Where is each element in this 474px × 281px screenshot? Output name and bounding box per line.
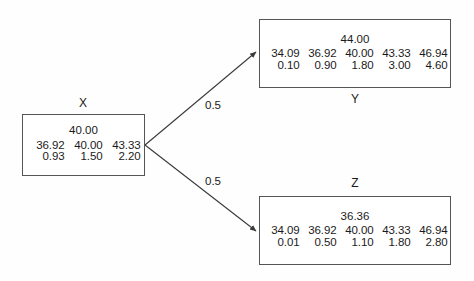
node-x-values: 0.93 1.50 2.20 [27, 151, 141, 165]
edge-x-to-z-label: 0.5 [205, 175, 221, 187]
node-z-values: 0.01 0.50 1.10 1.80 2.80 [263, 237, 448, 251]
diagram-canvas: X 40.00 36.92 40.00 43.33 0.93 1.50 2.20… [0, 0, 474, 281]
node-x-box: 40.00 36.92 40.00 43.33 0.93 1.50 2.20 [22, 114, 145, 176]
node-z-header: 36.36 [341, 211, 370, 226]
node-z-val-0: 0.01 [263, 237, 300, 249]
node-x-val-1: 1.50 [65, 151, 103, 163]
node-z-val-3: 1.80 [374, 237, 411, 249]
node-y-val-2: 1.80 [337, 60, 374, 72]
node-x-label: X [53, 96, 113, 110]
node-y-val-1: 0.90 [300, 60, 337, 72]
node-y-val-4: 4.60 [411, 60, 448, 72]
node-y-box: 44.00 34.09 36.92 40.00 43.33 46.94 0.10… [259, 19, 451, 88]
node-z-val-1: 0.50 [300, 237, 337, 249]
edge-x-to-y-label: 0.5 [205, 99, 221, 111]
node-z-val-4: 2.80 [411, 237, 448, 249]
node-x-val-2: 2.20 [103, 151, 141, 163]
node-x-val-0: 0.93 [27, 151, 65, 163]
node-y-label: Y [325, 92, 385, 106]
node-y-val-3: 3.00 [374, 60, 411, 72]
node-y-values: 0.10 0.90 1.80 3.00 4.60 [263, 60, 448, 74]
node-z-label: Z [325, 176, 385, 190]
node-y-val-0: 0.10 [263, 60, 300, 72]
edge-x-to-y-line [145, 52, 256, 145]
edge-x-to-z-line [145, 145, 256, 231]
node-y-header: 44.00 [341, 34, 370, 49]
node-x-header: 40.00 [69, 125, 98, 140]
node-z-box: 36.36 34.09 36.92 40.00 43.33 46.94 0.01… [259, 196, 451, 265]
node-z-val-2: 1.10 [337, 237, 374, 249]
